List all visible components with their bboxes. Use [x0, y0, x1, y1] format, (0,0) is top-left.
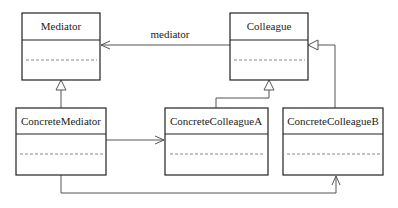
- edge-concretecolleaguea-to-colleague: [216, 80, 274, 108]
- edge-concretecolleagueb-to-colleague: [308, 40, 335, 108]
- inheritance-triangle-icon: [56, 80, 66, 90]
- association-label-mediator: mediator: [150, 28, 189, 40]
- edge-colleague-to-mediator: [101, 41, 230, 49]
- class-colleague[interactable]: Colleague: [230, 13, 308, 80]
- edge-concretemediator-to-concretecolleagueb: [61, 175, 340, 193]
- inheritance-triangle-icon: [264, 80, 274, 90]
- class-name: ConcreteColleagueB: [287, 115, 379, 127]
- class-name: ConcreteColleagueA: [170, 115, 262, 127]
- class-name: ConcreteMediator: [21, 115, 101, 127]
- uml-diagram: mediator Mediator Colleague: [0, 0, 398, 208]
- class-concrete-mediator[interactable]: ConcreteMediator: [16, 108, 106, 175]
- edge-concretemediator-to-mediator: [56, 80, 66, 108]
- inheritance-triangle-icon: [308, 40, 318, 50]
- class-concrete-colleague-a[interactable]: ConcreteColleagueA: [165, 108, 268, 175]
- class-name: Mediator: [41, 20, 82, 32]
- class-name: Colleague: [247, 20, 292, 32]
- class-concrete-colleague-b[interactable]: ConcreteColleagueB: [283, 108, 383, 175]
- class-mediator[interactable]: Mediator: [22, 13, 100, 80]
- edge-concretemediator-to-concretecolleaguea: [106, 136, 164, 144]
